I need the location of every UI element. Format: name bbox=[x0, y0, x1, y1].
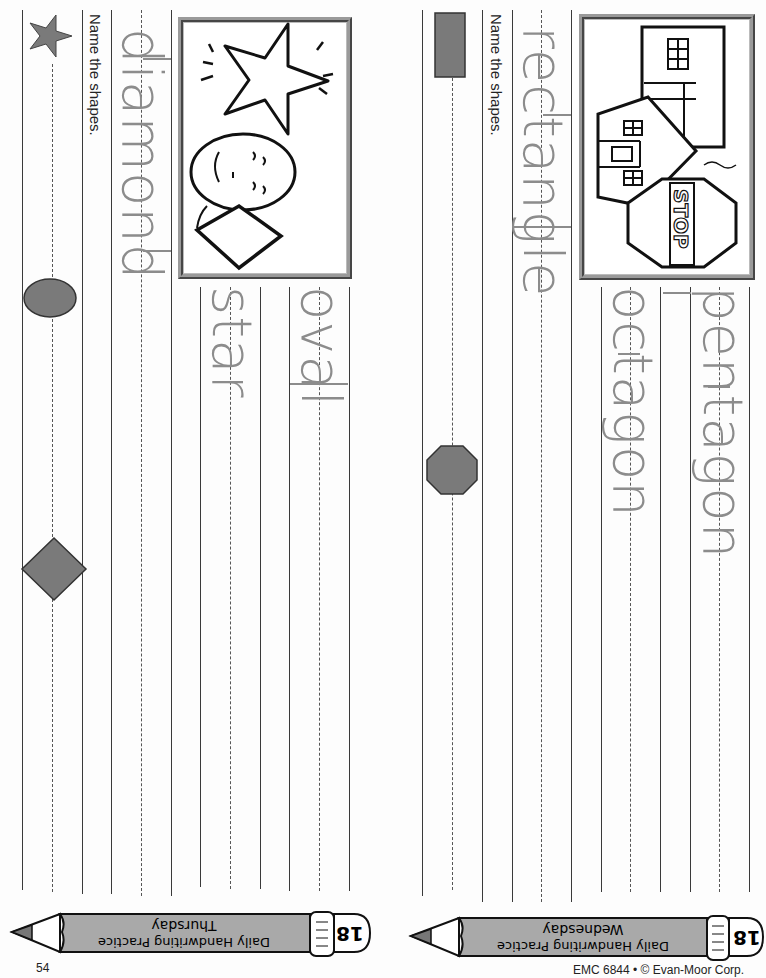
instruction-text: Name the shapes. bbox=[87, 14, 104, 136]
octagon-icon bbox=[425, 444, 479, 496]
rule-midline bbox=[52, 64, 53, 892]
trace-guide-tick bbox=[290, 383, 348, 385]
diamond-icon bbox=[197, 206, 281, 268]
pencil-badge-number: 18 bbox=[336, 922, 364, 946]
smoke-icon bbox=[704, 162, 736, 168]
trace-guide-tick bbox=[708, 386, 730, 388]
page-number: 54 bbox=[36, 961, 49, 975]
star-icon bbox=[225, 24, 328, 134]
pencil-day: Thursday bbox=[68, 918, 300, 934]
ferrule-icon bbox=[310, 912, 334, 956]
instruction-text: Name the shapes. bbox=[488, 14, 505, 136]
trace-guide-tick bbox=[143, 250, 171, 252]
copyright-footer: EMC 6844 • © Evan-Moor Corp. bbox=[573, 963, 744, 977]
trace-guide-tick bbox=[618, 353, 640, 355]
trace-guide-tick bbox=[143, 58, 171, 60]
trace-word-rectangle: rectangle bbox=[513, 26, 573, 297]
trace-guide-tick bbox=[543, 114, 571, 116]
shapes-picture bbox=[178, 17, 352, 279]
trace-guide-tick bbox=[513, 226, 571, 228]
rectangle-icon bbox=[434, 12, 466, 78]
rule-line bbox=[22, 10, 23, 890]
diamond-icon bbox=[20, 536, 90, 602]
oval-icon bbox=[22, 277, 78, 319]
stop-sign-text: STOP bbox=[669, 189, 693, 249]
page-wednesday: Name the shapes. rectangle pentagon octa… bbox=[383, 0, 766, 978]
trace-word-star: star bbox=[202, 286, 262, 398]
pencil-title: Daily Handwriting Practice bbox=[68, 935, 300, 950]
star-icon bbox=[28, 12, 72, 64]
trace-word-oval: oval bbox=[291, 286, 351, 407]
pencil-badge-number: 18 bbox=[733, 926, 761, 950]
ferrule-icon bbox=[707, 916, 729, 960]
trace-word-pentagon: pentagon bbox=[693, 286, 753, 559]
rule-line bbox=[422, 10, 423, 896]
page-thursday: Name the shapes. diamond star oval bbox=[0, 0, 383, 978]
pencil-title: Daily Handwriting Practice bbox=[467, 939, 699, 954]
oval-icon bbox=[191, 134, 295, 210]
rule-line bbox=[482, 10, 483, 902]
trace-word-diamond: diamond bbox=[112, 28, 172, 280]
trace-word-octagon: octagon bbox=[603, 286, 663, 518]
rule-line bbox=[82, 10, 83, 894]
pencil-day: Wednesday bbox=[467, 922, 699, 938]
shapes-picture: STOP bbox=[579, 14, 755, 280]
trace-guide-tick bbox=[663, 292, 691, 294]
